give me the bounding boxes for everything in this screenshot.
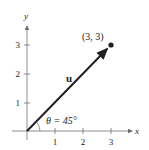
x-tick-label-2: 2 — [81, 137, 86, 147]
angle-arc — [36, 122, 40, 131]
x-tick-label-1: 1 — [53, 137, 58, 147]
y-axis-label: y — [23, 11, 28, 21]
point-label: (3, 3) — [82, 31, 104, 43]
endpoint-dot — [108, 42, 113, 47]
x-tick-label-3: 3 — [109, 137, 114, 147]
angle-label: θ = 45° — [46, 115, 77, 126]
y-tick-label-1: 1 — [16, 98, 21, 108]
x-axis-label: x — [134, 126, 139, 136]
y-tick-label-3: 3 — [16, 40, 21, 50]
y-tick-label-2: 2 — [16, 69, 21, 79]
vector-diagram: 1 2 3 1 2 3 x y (3, 3) u θ = 45° — [0, 0, 149, 150]
vector-label: u — [66, 72, 72, 84]
